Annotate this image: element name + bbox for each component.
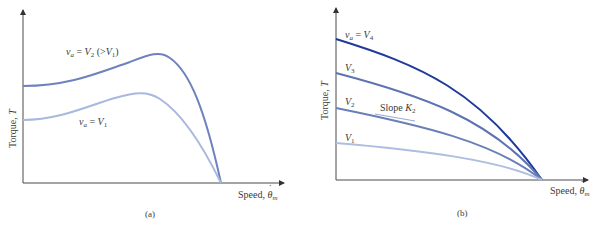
panel-a-caption: (a): [145, 210, 155, 219]
x-label-text: Speed,: [238, 189, 267, 200]
panel-a-y-axis-label: Torque, T: [8, 109, 18, 148]
panel-b-caption: (b): [457, 209, 468, 218]
panel-b-label-v1: V1: [345, 133, 355, 145]
panel-b-label-v4: va = V4: [345, 30, 373, 42]
figure-canvas: [0, 0, 598, 227]
panel-a-label-v1: va = V1: [79, 117, 107, 129]
y-label-text: Torque,: [319, 87, 330, 120]
panel-b-axes: [336, 8, 588, 180]
x-label-sub: m: [272, 194, 277, 202]
y-label-var: T: [7, 109, 18, 115]
panel-a-curve-v1: [23, 93, 221, 183]
x-label-text: Speed,: [550, 185, 579, 196]
panel-a-label-v2: va = V2 (>V1): [66, 47, 119, 59]
slope-ksub: 2: [412, 107, 416, 115]
label-eq: =: [74, 46, 85, 57]
panel-b-curve-v3: [336, 73, 542, 180]
label-vsub: 4: [370, 34, 374, 42]
label-eq: =: [87, 116, 98, 127]
panel-b-label-v2: V2: [345, 97, 355, 109]
label-vsub: 1: [351, 137, 355, 145]
label-eq: =: [353, 29, 364, 40]
panel-b-y-axis-label: Torque, T: [320, 81, 330, 120]
label-vsub: 2: [351, 101, 355, 109]
label-paren: (>: [94, 46, 105, 57]
slope-text: Slope: [380, 102, 405, 113]
y-label-var: T: [319, 81, 330, 87]
panel-a-x-axis-label: Speed, θm: [238, 190, 277, 202]
panel-b-slope-annotation: Slope K2: [380, 103, 415, 115]
x-label-var: θ: [579, 186, 584, 196]
panel-a-curve-v2: [23, 54, 221, 183]
panel-b-label-v3: V3: [345, 63, 355, 75]
label-paren-close: ): [115, 46, 118, 57]
y-label-text: Torque,: [7, 115, 18, 148]
x-label-sub: m: [584, 190, 589, 198]
x-label-var: θ: [267, 190, 272, 200]
slope-K: K: [405, 102, 412, 113]
label-vsub: 1: [104, 121, 108, 129]
label-vsub: 3: [351, 67, 355, 75]
panel-b-x-axis-label: Speed, θm: [550, 186, 589, 198]
